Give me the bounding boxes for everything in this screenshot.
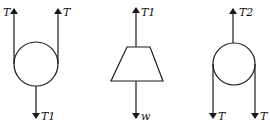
- label-tension-top: T2: [239, 6, 253, 19]
- label-tension-right: T: [260, 110, 269, 123]
- pulley-lower-diagram: T2 T T: [213, 6, 269, 123]
- label-tension-top: T1: [141, 6, 155, 19]
- diagram-canvas: T T T1 T1 w T2 T T: [0, 0, 270, 125]
- weight-block-diagram: T1 w: [111, 6, 163, 123]
- pulley-upper-diagram: T T T1: [3, 6, 72, 123]
- pulley-circle: [213, 43, 255, 85]
- pulley-circle: [14, 42, 58, 86]
- label-tension-left: T: [218, 110, 227, 123]
- label-tension-left: T: [3, 6, 12, 19]
- label-weight: w: [141, 110, 151, 123]
- trapezoid-block: [111, 47, 163, 81]
- label-tension-bottom: T1: [41, 110, 55, 123]
- label-tension-right: T: [63, 6, 72, 19]
- free-body-diagrams: T T T1 T1 w T2 T T: [0, 0, 270, 125]
